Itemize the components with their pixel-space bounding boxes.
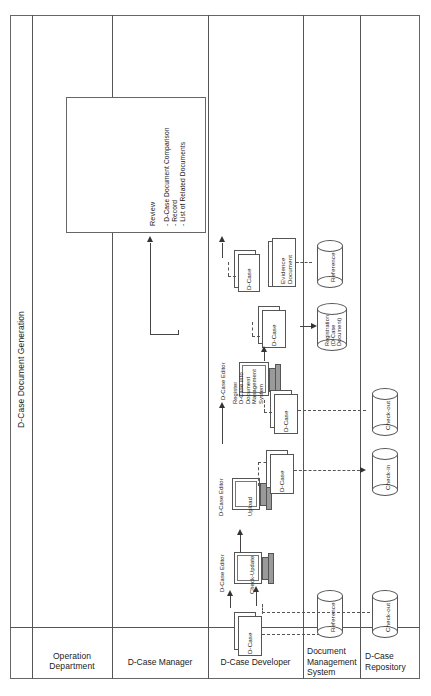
datastore-dms-registration-label: Registration (D-Case Document) (324, 308, 354, 346)
dashed-upload-v (258, 462, 259, 486)
lane-title-operation-department: Operation Department (34, 631, 110, 693)
diagram-canvas: D-Case Document Generation Operation Dep… (0, 0, 431, 696)
lane-divider-3 (208, 15, 209, 679)
dashed-initial-to-reference (262, 634, 320, 635)
flow-line-editor-register-out (264, 352, 265, 361)
dashed-checkin-to-repo (294, 470, 360, 471)
doc-dcase-checkout-label: D-Case (283, 398, 290, 432)
doc-dcase-checkout: D-Case (274, 394, 298, 434)
flow-arrowhead-check-update-in (253, 586, 259, 592)
flow-line-review-seg-b (150, 334, 179, 335)
datastore-dms-registration: Registration (D-Case Document) (317, 303, 347, 351)
datastore-dms-reference-top-label: Reference (330, 246, 356, 282)
editor-upload-action: Upload (247, 486, 253, 516)
doc-dcase-register: D-Case (262, 310, 286, 348)
doc-dcase-checkin: D-Case (270, 454, 294, 494)
editor-check-update-title: D-Case Editor (219, 550, 225, 592)
dashed-dcase-elbow-v (228, 262, 229, 276)
flow-arrowhead-editor-register-in (219, 402, 225, 408)
editor-upload-monitor (232, 478, 260, 510)
datastore-dms-reference-bottom-label: Reference (330, 596, 356, 632)
flow-arrowhead-initial-to-editor (227, 590, 233, 596)
editor-check-update-monitor (234, 552, 262, 584)
datastore-dms-reference-bottom: Reference (317, 590, 343, 638)
dashed-checkout-elbow-v (264, 400, 265, 412)
dashed-register-elbow-v (252, 322, 253, 336)
dashed-repo-checkout-bottom-v (262, 604, 263, 614)
flow-line-dcase-to-review (222, 243, 223, 258)
flow-line-check-update-in (256, 592, 257, 606)
flow-line-initial-to-editor (230, 596, 231, 608)
flow-arrowhead-dcase-to-review (219, 236, 225, 242)
review-activity-box: Review - D-Case Document Comparison - Re… (66, 97, 206, 233)
review-box-item-2: - List of Related Documents (179, 106, 186, 226)
doc-dcase-review: D-Case (238, 254, 260, 292)
datastore-repo-check-out-label: Check-out (385, 394, 411, 430)
dashed-checkout-elbow-h (264, 412, 272, 413)
flow-arrowhead-review (147, 236, 153, 242)
doc-dcase-review-label: D-Case (246, 258, 253, 290)
phase-label: D-Case Document Generation (12, 300, 32, 440)
datastore-repo-check-out-bottom: Check-out (372, 590, 398, 638)
lane-divider-1 (32, 15, 33, 679)
review-box-item-0: - D-Case Document Comparison (163, 106, 170, 226)
review-box-item-1: - Record (171, 106, 178, 226)
doc-dcase-initial-label: D-Case (247, 620, 254, 654)
lane-title-document-management-system: Document Management System (305, 631, 360, 693)
datastore-repo-check-out: Check-out (372, 388, 398, 436)
doc-dcase-register-label: D-Case (271, 314, 278, 346)
lane-title-d-case-repository: D-Case Repository (362, 631, 421, 693)
flow-arrowhead-checkin (360, 467, 366, 473)
editor-upload-title: D-Case Editor (218, 474, 224, 516)
dashed-evidence-to-reference (296, 262, 312, 263)
doc-dcase-initial: D-Case (238, 616, 262, 656)
lane-title-d-case-manager: D-Case Manager (114, 631, 206, 693)
editor-register-action: Register D-Case into Document Management… (232, 360, 264, 404)
datastore-repo-check-in-label: Check-in (385, 454, 411, 490)
doc-evidence-label: Evidence Document (279, 242, 293, 284)
flow-line-review-seg-c (150, 243, 151, 335)
lane-divider-5 (360, 15, 361, 679)
editor-register-title: D-Case Editor (220, 360, 226, 400)
datastore-repo-check-out-bottom-label: Check-out (385, 596, 411, 632)
flow-line-editor-register-in (222, 408, 223, 444)
review-box-title: Review (149, 106, 157, 226)
dashed-register-elbow-h (252, 336, 260, 337)
flow-arrowhead-check-update-out (237, 529, 243, 535)
flow-arrowhead-editor-register-out (261, 346, 267, 352)
dashed-checkout-to-repo (298, 410, 366, 411)
doc-evidence: Evidence Document (272, 238, 296, 287)
flow-arrowhead-to-registration (311, 323, 317, 329)
datastore-dms-reference-top: Reference (317, 240, 343, 288)
lane-title-divider (10, 627, 420, 628)
lane-divider-4 (303, 15, 304, 679)
dashed-dcase-elbow-h (228, 276, 236, 277)
flow-line-check-update-out (240, 535, 241, 553)
doc-dcase-checkin-label: D-Case (279, 458, 286, 492)
dashed-repo-checkout-bottom (262, 612, 370, 613)
datastore-repo-check-in: Check-in (372, 448, 398, 496)
